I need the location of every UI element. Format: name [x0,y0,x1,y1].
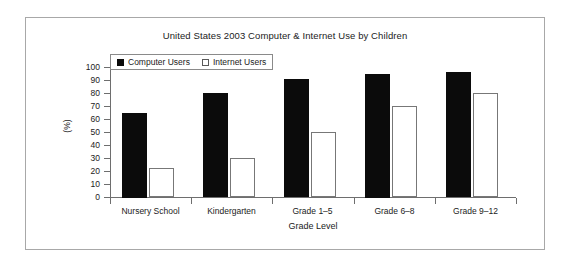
y-tick-label: 10 [72,179,100,189]
x-category-label: Kindergarten [191,206,272,216]
x-category-label: Nursery School [110,206,191,216]
bar [365,74,390,198]
x-axis-title: Grade Level [110,221,516,231]
y-tick-label: 80 [72,88,100,98]
legend-swatch-icon [117,59,124,66]
legend-entry: Internet Users [202,57,266,67]
y-tick-label: 50 [72,127,100,137]
y-tick-label: 30 [72,153,100,163]
y-tick [104,184,110,185]
x-tick [516,198,517,204]
y-tick [104,132,110,133]
chart-title: United States 2003 Computer & Internet U… [25,30,545,41]
legend-label: Internet Users [213,57,266,67]
x-tick [354,198,355,204]
y-tick-label: 90 [72,75,100,85]
bar [392,106,417,197]
x-tick [272,198,273,204]
legend-swatch-icon [202,59,209,66]
bar [311,132,336,197]
y-tick-label: 40 [72,140,100,150]
bar [284,79,309,197]
y-tick-label: 70 [72,101,100,111]
y-tick [104,119,110,120]
x-tick [191,198,192,204]
x-category-label: Grade 1–5 [272,206,353,216]
chart-figure: United States 2003 Computer & Internet U… [0,0,567,269]
bar [446,72,471,197]
y-tick [104,158,110,159]
bar [203,93,228,197]
bar [149,168,174,197]
y-tick [104,145,110,146]
y-tick-label: 0 [72,192,100,202]
y-tick-label: 20 [72,166,100,176]
x-tick [110,198,111,204]
chart-legend: Computer UsersInternet Users [110,54,273,70]
x-category-label: Grade 9–12 [435,206,516,216]
y-tick [104,80,110,81]
x-axis-line [110,197,516,198]
x-category-label: Grade 6–8 [354,206,435,216]
legend-entry: Computer Users [117,57,190,67]
y-tick [104,106,110,107]
y-tick-label: 100 [72,62,100,72]
bar [473,93,498,197]
x-tick [435,198,436,204]
y-tick [104,171,110,172]
bar [122,113,147,198]
y-axis-line [110,67,111,198]
legend-label: Computer Users [128,57,190,67]
bar [230,158,255,197]
y-axis-title: (%) [62,111,72,141]
y-tick-label: 60 [72,114,100,124]
y-tick [104,93,110,94]
